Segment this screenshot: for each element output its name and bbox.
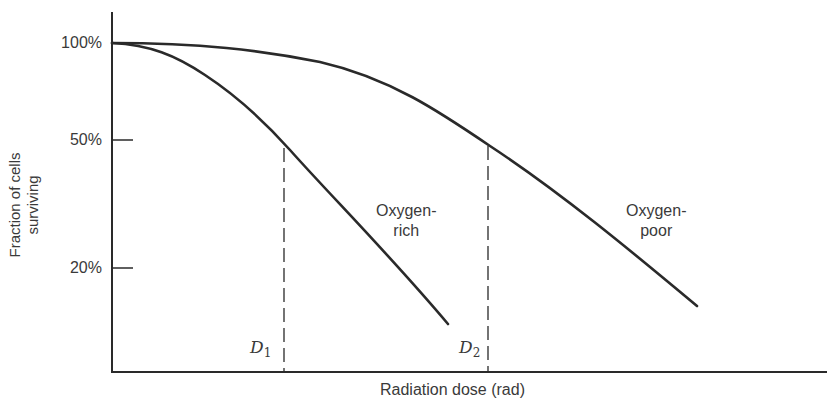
d2-label-sub: 2 [473,346,481,360]
oxygen-poor-label-line1: Oxygen- [626,201,686,221]
d1-label-sub: 1 [264,346,272,360]
oxygen-rich-label-line1: Oxygen- [376,201,436,221]
oxygen-poor-label: Oxygen- poor [626,201,686,241]
y-axis-title-line2: surviving [24,152,42,257]
d2-label-main: D [459,337,473,357]
y-tick-label-100: 100% [42,34,102,52]
oxygen-poor-label-line2: poor [626,221,686,241]
oxygen-rich-curve [112,43,448,324]
x-axis-title: Radiation dose (rad) [380,381,525,399]
y-axis-title: Fraction of cells surviving [6,152,42,257]
y-tick-label-20: 20% [42,259,102,277]
y-tick-label-50: 50% [42,131,102,149]
d1-label: D1 [250,337,271,360]
d1-label-main: D [250,337,264,357]
y-axis-title-line1: Fraction of cells [6,152,24,257]
oxygen-rich-label-line2: rich [376,221,436,241]
oxygen-poor-curve [112,43,697,306]
d2-label: D2 [459,337,480,360]
oxygen-rich-label: Oxygen- rich [376,201,436,241]
